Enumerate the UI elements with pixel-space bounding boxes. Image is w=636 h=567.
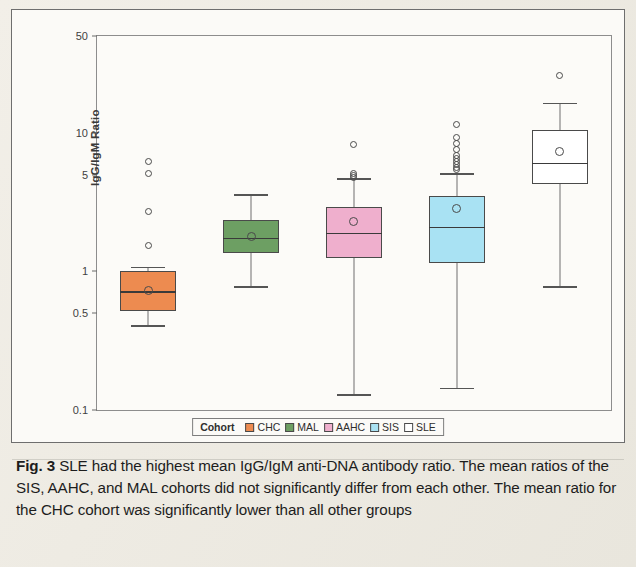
y-tick-50: 50 [76, 30, 97, 42]
whisker-cap-upper [131, 267, 165, 269]
legend-swatch-aahc [324, 423, 333, 432]
caption-text: SLE had the highest mean IgG/IgM anti-DN… [16, 457, 616, 518]
y-tick-10: 10 [76, 127, 97, 139]
whisker-cap-lower [543, 286, 577, 288]
whisker-cap-lower [131, 325, 165, 327]
boxplot-chc [97, 36, 200, 410]
legend-swatch-mal [285, 423, 294, 432]
median-line [429, 227, 485, 229]
whisker-cap-lower [337, 394, 371, 396]
outlier-point [145, 170, 152, 177]
legend-item-sis[interactable]: SIS [370, 421, 399, 433]
outlier-point [145, 208, 152, 215]
legend-swatch-sle [404, 423, 413, 432]
boxplot-aahc [303, 36, 406, 410]
y-tick-0-1: 0.1 [73, 404, 97, 416]
legend-item-chc[interactable]: CHC [246, 421, 281, 433]
legend-item-aahc[interactable]: AAHC [324, 421, 365, 433]
legend-label: SIS [382, 421, 399, 433]
plot-area: IgG/IgM Ratio 0.10.5151050 [96, 35, 612, 411]
whisker-cap-upper [543, 103, 577, 105]
median-line [532, 163, 588, 165]
whisker-cap-upper [440, 173, 474, 175]
whisker-cap-lower [440, 388, 474, 390]
outlier-point [453, 121, 460, 128]
mean-marker [144, 286, 153, 295]
legend-swatch-chc [246, 423, 255, 432]
legend-item-sle[interactable]: SLE [404, 421, 436, 433]
legend-label: AAHC [336, 421, 365, 433]
mean-marker [247, 232, 256, 241]
outlier-point [556, 72, 563, 79]
outlier-point [453, 166, 460, 173]
y-tick-0-5: 0.5 [73, 307, 97, 319]
median-line [326, 233, 382, 235]
whisker-cap-lower [234, 286, 268, 288]
box-iqr [532, 130, 588, 184]
legend-label: SLE [416, 421, 436, 433]
y-tick-1: 1 [82, 265, 97, 277]
boxplot-mal [200, 36, 303, 410]
figure-caption: Fig. 3 SLE had the highest mean IgG/IgM … [16, 455, 620, 521]
figure-panel: IgG/IgM Ratio 0.10.5151050 Cohort CHCMAL… [11, 9, 625, 443]
legend-items: CHCMALAAHCSISSLE [246, 421, 436, 433]
legend-item-mal[interactable]: MAL [285, 421, 319, 433]
y-tick-5: 5 [82, 169, 97, 181]
boxplot-sle [508, 36, 611, 410]
outlier-point [145, 242, 152, 249]
whisker-cap-upper [234, 194, 268, 196]
legend-label: CHC [258, 421, 281, 433]
outlier-point [145, 158, 152, 165]
legend-title: Cohort [200, 421, 234, 433]
legend: Cohort CHCMALAAHCSISSLE [192, 418, 444, 436]
caption-label: Fig. 3 [16, 457, 55, 474]
boxplot-sis [405, 36, 508, 410]
legend-swatch-sis [370, 423, 379, 432]
legend-label: MAL [297, 421, 319, 433]
outlier-point [350, 141, 357, 148]
